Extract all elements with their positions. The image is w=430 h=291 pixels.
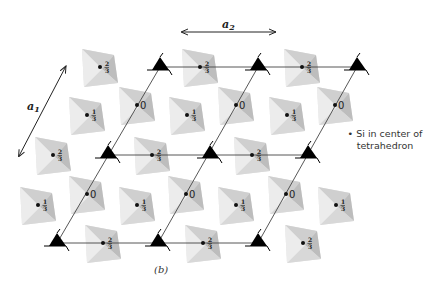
threefold-axis-icon <box>147 53 172 75</box>
si-atom-dot <box>135 103 139 107</box>
si-atom-dot <box>135 203 139 207</box>
si-atom-dot <box>284 192 288 196</box>
threefold-axis-icon <box>197 141 222 163</box>
si-atom-dot <box>300 65 304 69</box>
si-atom-dot <box>184 192 188 196</box>
height-label-numerator: 1 <box>241 198 245 205</box>
height-label-denominator: 3 <box>58 155 62 162</box>
height-label-numerator: 2 <box>105 60 109 67</box>
height-label-numerator: 2 <box>307 60 311 67</box>
height-label-denominator: 3 <box>241 205 245 212</box>
height-label-numerator: 1 <box>142 198 146 205</box>
height-label: 0 <box>338 100 344 111</box>
legend-line-1: Si in center of <box>356 128 422 139</box>
threefold-axis-icon <box>95 141 120 163</box>
threefold-axis-icon <box>295 141 320 163</box>
height-label-numerator: 1 <box>292 108 296 115</box>
legend: • Si in center of tetrahedron <box>340 128 430 152</box>
si-atom-dot <box>234 103 238 107</box>
vector-a2-label: a2 <box>222 18 235 32</box>
height-label-numerator: 1 <box>341 198 345 205</box>
si-marker-icon: • <box>348 128 354 139</box>
si-atom-dot <box>333 103 337 107</box>
si-atom-dot <box>98 65 102 69</box>
height-label-numerator: 1 <box>43 198 47 205</box>
height-label-denominator: 3 <box>341 205 345 212</box>
threefold-axis-icon <box>44 229 69 251</box>
si-atom-dot <box>250 153 254 157</box>
height-label-numerator: 1 <box>92 108 96 115</box>
si-atom-dot <box>285 113 289 117</box>
threefold-axis-icon <box>245 229 270 251</box>
height-label-numerator: 2 <box>58 148 62 155</box>
legend-line-2: tetrahedron <box>340 140 430 152</box>
si-atom-dot <box>85 113 89 117</box>
height-label: 0 <box>239 100 245 111</box>
height-label-numerator: 2 <box>208 236 212 243</box>
vector-a2: a2 <box>182 18 276 32</box>
si-atom-dot <box>334 203 338 207</box>
si-atom-dot <box>36 203 40 207</box>
height-label-denominator: 3 <box>157 155 161 162</box>
height-label-numerator: 2 <box>157 148 161 155</box>
threefold-axis-icon <box>344 53 369 75</box>
height-label: 0 <box>140 100 146 111</box>
height-label-denominator: 3 <box>257 155 261 162</box>
si-atom-dot <box>150 153 154 157</box>
si-atom-dot <box>51 153 55 157</box>
height-label-numerator: 2 <box>257 148 261 155</box>
height-label-denominator: 3 <box>205 67 209 74</box>
height-label-denominator: 3 <box>292 115 296 122</box>
si-atom-dot <box>301 241 305 245</box>
threefold-axis-icon <box>145 229 170 251</box>
si-atom-dot <box>85 192 89 196</box>
height-label-denominator: 3 <box>307 67 311 74</box>
height-label: 0 <box>189 189 195 200</box>
height-label: 0 <box>90 189 96 200</box>
height-label-denominator: 3 <box>92 115 96 122</box>
si-atom-dot <box>198 65 202 69</box>
height-label-denominator: 3 <box>208 243 212 250</box>
si-atom-dot <box>234 203 238 207</box>
height-label-denominator: 3 <box>105 67 109 74</box>
height-label-numerator: 2 <box>308 236 312 243</box>
height-label-numerator: 2 <box>205 60 209 67</box>
si-atom-dot <box>201 241 205 245</box>
threefold-axis-icon <box>245 53 270 75</box>
height-label-denominator: 3 <box>308 243 312 250</box>
height-label-denominator: 3 <box>108 243 112 250</box>
height-label-denominator: 3 <box>192 115 196 122</box>
si-atom-dot <box>101 241 105 245</box>
height-label-numerator: 1 <box>192 108 196 115</box>
crystal-structure-figure: 23232313013013023232313013013013232323 a… <box>0 0 430 291</box>
vector-a1-label: a1 <box>27 100 40 114</box>
figure-caption: (b) <box>154 264 168 275</box>
height-label-numerator: 2 <box>108 236 112 243</box>
si-atom-dot <box>185 113 189 117</box>
height-label: 0 <box>289 189 295 200</box>
height-label-denominator: 3 <box>43 205 47 212</box>
height-label-denominator: 3 <box>142 205 146 212</box>
